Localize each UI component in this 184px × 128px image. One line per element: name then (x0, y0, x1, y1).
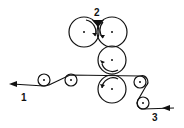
rotation-arrow-bottom (102, 78, 118, 88)
label-entry: 3 (152, 112, 158, 123)
entry-arrow-icon (162, 105, 170, 111)
roller-diagram: 2 1 3 (0, 0, 184, 128)
rotation-arrow-middle (102, 64, 118, 72)
exit-arrow-icon (9, 81, 17, 87)
web-path (12, 75, 174, 109)
label-exit: 1 (21, 92, 27, 103)
label-nip: 2 (94, 7, 100, 18)
